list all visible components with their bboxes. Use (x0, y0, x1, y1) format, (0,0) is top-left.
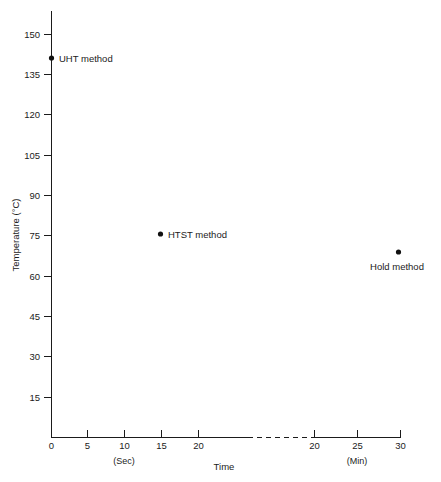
y-tick-label-135: 135 (24, 69, 40, 80)
y-tick-label-60: 60 (29, 271, 40, 282)
y-tick-label-75: 75 (29, 230, 40, 241)
x-axis-unit-seconds: (Sec) (113, 456, 135, 466)
x-tick-label-sec-10: 10 (119, 440, 130, 451)
scatter-chart: 150 135 120 105 90 75 60 45 30 15 Temper… (0, 0, 441, 482)
data-points: UHT method HTST method Hold method (49, 53, 424, 273)
data-point-hold[interactable]: Hold method (370, 249, 424, 272)
y-tick-label-150: 150 (24, 29, 40, 40)
y-axis-title: Temperature (°C) (10, 199, 21, 272)
x-tick-label-sec-5: 5 (85, 440, 90, 451)
y-tick-label-45: 45 (29, 311, 40, 322)
uht-marker[interactable] (49, 55, 54, 60)
hold-label: Hold method (370, 261, 424, 272)
data-point-htst[interactable]: HTST method (158, 229, 227, 240)
data-point-uht[interactable]: UHT method (49, 53, 113, 64)
y-tick-label-90: 90 (29, 190, 40, 201)
y-tick-label-30: 30 (29, 351, 40, 362)
y-tick-label-105: 105 (24, 150, 40, 161)
htst-marker[interactable] (158, 231, 163, 236)
hold-marker[interactable] (396, 249, 401, 254)
y-tick-label-120: 120 (24, 109, 40, 120)
x-tick-label-sec-0: 0 (49, 440, 54, 451)
x-tick-label-min-25: 25 (352, 440, 363, 451)
chart-canvas: 150 135 120 105 90 75 60 45 30 15 Temper… (0, 0, 441, 482)
x-axis-title: Time (214, 461, 235, 472)
y-axis: 150 135 120 105 90 75 60 45 30 15 Temper… (10, 11, 52, 438)
x-axis-unit-minutes: (Min) (347, 456, 368, 466)
x-axis: 0 5 10 15 20 20 25 30 (Sec) (Min) Time (49, 430, 406, 472)
y-tick-label-15: 15 (29, 392, 40, 403)
uht-label: UHT method (59, 53, 113, 64)
x-tick-label-min-30: 30 (395, 440, 406, 451)
x-tick-label-sec-15: 15 (156, 440, 167, 451)
x-tick-label-sec-20: 20 (193, 440, 204, 451)
x-tick-label-min-20: 20 (309, 440, 320, 451)
htst-label: HTST method (168, 229, 227, 240)
